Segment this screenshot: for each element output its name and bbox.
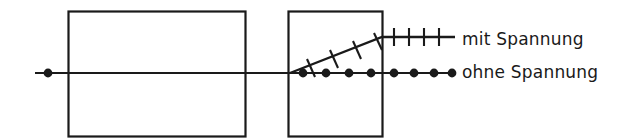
dot-marker bbox=[410, 69, 419, 78]
dot-marker bbox=[448, 69, 457, 78]
dot-marker bbox=[322, 69, 331, 78]
dot-marker bbox=[345, 69, 354, 78]
dot-marker bbox=[299, 69, 308, 78]
dot-marker bbox=[44, 69, 53, 78]
series-mit-spannung-line bbox=[290, 37, 455, 73]
dot-marker bbox=[367, 69, 376, 78]
legend-label-mit-spannung: mit Spannung bbox=[462, 31, 584, 48]
legend-label-ohne-spannung: ohne Spannung bbox=[462, 64, 598, 81]
diagram-canvas: mit Spannung ohne Spannung bbox=[0, 0, 617, 140]
dot-marker bbox=[390, 69, 399, 78]
dot-marker bbox=[430, 69, 439, 78]
